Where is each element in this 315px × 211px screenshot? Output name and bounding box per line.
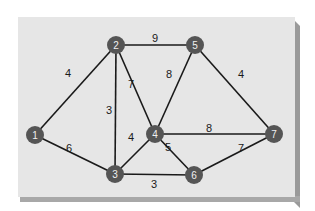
node-4: 4 [146, 125, 164, 143]
node-6: 6 [185, 166, 203, 184]
edges-layer [35, 45, 274, 175]
node-1: 1 [26, 126, 44, 144]
node-label: 2 [113, 40, 119, 51]
node-label: 7 [271, 129, 277, 140]
node-7: 7 [265, 125, 283, 143]
edge-weight-label: 9 [152, 32, 158, 44]
node-label: 6 [191, 170, 197, 181]
edge-7-6 [194, 134, 274, 175]
edge-weight-label: 8 [206, 122, 212, 134]
edge-weight-label: 4 [65, 67, 71, 79]
edge-1-3 [35, 135, 115, 174]
edge-weight-label: 7 [128, 78, 134, 90]
node-label: 5 [192, 40, 198, 51]
node-2: 2 [107, 36, 125, 54]
weights-layer: 469378484537 [65, 32, 244, 190]
edge-weight-label: 7 [238, 142, 244, 154]
node-5: 5 [186, 36, 204, 54]
node-label: 3 [112, 169, 118, 180]
nodes-layer: 1234567 [26, 36, 283, 184]
edge-5-4 [155, 45, 195, 134]
edge-weight-label: 5 [165, 141, 171, 153]
edge-weight-label: 4 [128, 131, 134, 143]
edge-weight-label: 8 [166, 68, 172, 80]
weighted-graph: 469378484537 1234567 [0, 0, 315, 211]
edge-2-4 [116, 45, 155, 134]
edge-5-7 [195, 45, 274, 134]
edge-weight-label: 6 [66, 142, 72, 154]
node-label: 1 [32, 130, 38, 141]
edge-weight-label: 3 [106, 104, 112, 116]
node-3: 3 [106, 165, 124, 183]
edge-2-3 [115, 45, 116, 174]
edge-weight-label: 4 [238, 68, 244, 80]
edge-3-6 [115, 174, 194, 175]
node-label: 4 [152, 129, 158, 140]
edge-weight-label: 3 [151, 178, 157, 190]
edge-1-2 [35, 45, 116, 135]
